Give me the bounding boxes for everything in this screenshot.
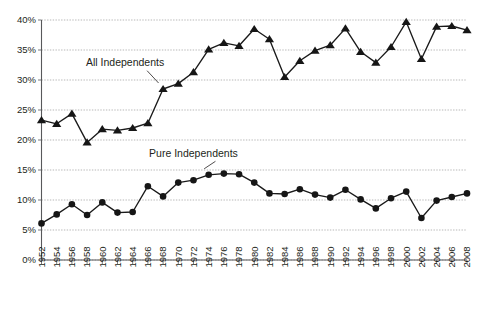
data-point-pure-independents-1962 xyxy=(114,209,121,216)
data-point-pure-independents-1996 xyxy=(373,205,380,212)
series-annotations-group: All IndependentsPure Independents xyxy=(86,56,238,169)
y-tick-label-10: 10% xyxy=(17,194,37,205)
chart-container: 0%5%10%15%20%25%30%35%40% 19521954195619… xyxy=(0,0,491,311)
data-point-pure-independents-2008 xyxy=(464,190,471,197)
data-point-pure-independents-1960 xyxy=(99,199,106,206)
y-tick-label-20: 20% xyxy=(17,134,37,145)
data-point-pure-independents-1954 xyxy=(53,211,60,218)
x-tick-label-1972: 1972 xyxy=(188,246,199,267)
data-point-pure-independents-1956 xyxy=(69,201,76,208)
series-markers-group xyxy=(37,18,472,227)
series-leader-line-all-independents xyxy=(147,71,158,83)
data-point-pure-independents-1964 xyxy=(129,209,136,216)
data-point-all-independents-1982 xyxy=(265,35,274,42)
data-point-pure-independents-2000 xyxy=(403,188,410,195)
data-point-pure-independents-2002 xyxy=(418,215,425,222)
x-tick-label-1988: 1988 xyxy=(309,246,320,267)
y-tick-label-25: 25% xyxy=(17,104,37,115)
x-tick-label-1994: 1994 xyxy=(355,246,366,267)
data-point-pure-independents-1990 xyxy=(327,194,334,201)
x-tick-label-1970: 1970 xyxy=(173,246,184,267)
data-point-pure-independents-1970 xyxy=(175,179,182,186)
data-point-pure-independents-1980 xyxy=(251,179,258,186)
independents-line-chart: 0%5%10%15%20%25%30%35%40% 19521954195619… xyxy=(0,0,491,311)
x-tick-label-1982: 1982 xyxy=(264,246,275,267)
data-point-pure-independents-2004 xyxy=(433,197,440,204)
data-point-all-independents-1960 xyxy=(98,125,107,132)
data-point-all-independents-1966 xyxy=(143,119,152,126)
data-point-all-independents-1986 xyxy=(295,57,304,64)
y-tick-label-0: 0% xyxy=(22,254,36,265)
x-tick-label-1996: 1996 xyxy=(370,246,381,267)
x-tick-label-1966: 1966 xyxy=(142,246,153,267)
y-tick-label-30: 30% xyxy=(17,74,37,85)
y-axis-tick-labels: 0%5%10%15%20%25%30%35%40% xyxy=(17,14,42,265)
x-tick-label-1974: 1974 xyxy=(203,246,214,267)
series-label-all-independents: All Independents xyxy=(86,56,164,68)
data-point-pure-independents-1992 xyxy=(342,187,349,194)
x-tick-label-1980: 1980 xyxy=(249,246,260,267)
data-point-pure-independents-1974 xyxy=(205,172,212,179)
data-point-pure-independents-1952 xyxy=(38,220,45,227)
x-tick-label-1952: 1952 xyxy=(36,246,47,267)
x-tick-label-2000: 2000 xyxy=(401,246,412,267)
data-point-all-independents-1974 xyxy=(204,45,213,52)
data-point-pure-independents-1958 xyxy=(84,212,91,219)
data-point-pure-independents-1976 xyxy=(221,170,228,177)
data-point-pure-independents-1998 xyxy=(388,195,395,202)
series-leader-line-pure-independents xyxy=(204,161,215,169)
x-tick-label-2002: 2002 xyxy=(416,246,427,267)
data-point-pure-independents-1984 xyxy=(281,191,288,198)
x-tick-label-1976: 1976 xyxy=(218,246,229,267)
data-point-all-independents-1992 xyxy=(341,24,350,31)
x-tick-label-2004: 2004 xyxy=(431,246,442,267)
data-point-pure-independents-1994 xyxy=(357,196,364,203)
data-point-pure-independents-1986 xyxy=(297,186,304,193)
data-point-pure-independents-1988 xyxy=(312,191,319,198)
x-tick-label-1964: 1964 xyxy=(127,246,138,267)
data-point-all-independents-2002 xyxy=(417,55,426,62)
data-point-all-independents-2000 xyxy=(402,18,411,25)
x-tick-label-2008: 2008 xyxy=(461,246,472,267)
x-tick-label-1984: 1984 xyxy=(279,246,290,267)
data-point-all-independents-1952 xyxy=(37,116,46,123)
data-point-pure-independents-1978 xyxy=(236,171,243,178)
data-point-pure-independents-1968 xyxy=(160,193,167,200)
series-line-all-independents xyxy=(42,22,468,143)
data-point-all-independents-1994 xyxy=(356,48,365,55)
x-tick-label-1962: 1962 xyxy=(112,246,123,267)
data-point-all-independents-1956 xyxy=(67,110,76,117)
data-point-pure-independents-1982 xyxy=(266,190,273,197)
x-tick-label-1960: 1960 xyxy=(97,246,108,267)
data-point-pure-independents-2006 xyxy=(449,194,456,201)
series-label-pure-independents: Pure Independents xyxy=(149,147,238,159)
data-point-all-independents-1972 xyxy=(189,68,198,75)
x-tick-label-1986: 1986 xyxy=(294,246,305,267)
y-tick-label-5: 5% xyxy=(22,224,36,235)
y-tick-label-35: 35% xyxy=(17,44,37,55)
x-tick-label-1954: 1954 xyxy=(51,246,62,267)
series-lines-group xyxy=(42,22,468,224)
x-tick-label-1968: 1968 xyxy=(157,246,168,267)
x-tick-label-1978: 1978 xyxy=(233,246,244,267)
x-tick-label-1992: 1992 xyxy=(340,246,351,267)
data-point-all-independents-1976 xyxy=(219,39,228,46)
x-axis-tick-labels: 1952195419561958196019621964196619681970… xyxy=(36,246,473,267)
x-tick-label-1990: 1990 xyxy=(325,246,336,267)
data-point-all-independents-1998 xyxy=(386,43,395,50)
data-point-pure-independents-1972 xyxy=(190,177,197,184)
x-tick-label-1998: 1998 xyxy=(385,246,396,267)
x-tick-label-2006: 2006 xyxy=(446,246,457,267)
data-point-pure-independents-1966 xyxy=(145,183,152,190)
x-tick-label-1956: 1956 xyxy=(66,246,77,267)
x-tick-label-1958: 1958 xyxy=(81,246,92,267)
y-tick-label-15: 15% xyxy=(17,164,37,175)
data-point-all-independents-1980 xyxy=(250,25,259,32)
y-tick-label-40: 40% xyxy=(17,14,37,25)
